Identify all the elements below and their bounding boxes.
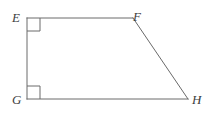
- angle-E-icon: [27, 18, 40, 31]
- vertex-label-e: E: [12, 11, 20, 24]
- polygon-edges: [27, 18, 188, 99]
- vertex-label-g: G: [12, 93, 21, 106]
- geometry-figure: E F G H: [0, 0, 211, 117]
- vertex-label-h: H: [192, 93, 201, 106]
- right-angle-marks: [27, 18, 40, 99]
- figure-canvas: [0, 0, 211, 117]
- angle-G-icon: [27, 86, 40, 99]
- vertex-label-f: F: [133, 10, 141, 23]
- edge-fh: [133, 18, 188, 99]
